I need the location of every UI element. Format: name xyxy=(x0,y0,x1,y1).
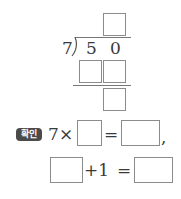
equals-sign-2: = xyxy=(117,162,131,179)
check-result-box[interactable] xyxy=(134,157,173,183)
product-tens-box[interactable] xyxy=(79,60,102,83)
times-sign: × xyxy=(59,126,73,143)
comma: , xyxy=(161,129,166,146)
dividend-digit-tens: 5 xyxy=(86,40,97,57)
subtraction-line xyxy=(73,85,131,86)
check-multiplicand: 7 xyxy=(48,126,59,143)
equals-sign-1: = xyxy=(104,126,118,143)
dividend-digit-ones: 0 xyxy=(110,40,121,57)
remainder-box[interactable] xyxy=(103,88,126,111)
check-product-box[interactable] xyxy=(121,120,160,146)
check-sum-input-box[interactable] xyxy=(50,157,83,183)
quotient-answer-box[interactable] xyxy=(103,13,126,36)
check-quotient-box[interactable] xyxy=(77,120,102,146)
product-ones-box[interactable] xyxy=(103,60,126,83)
plus-one: +1 xyxy=(84,162,109,179)
divisor: 7 xyxy=(62,40,73,57)
division-bar xyxy=(75,37,131,38)
check-badge: 확인 xyxy=(16,128,42,141)
